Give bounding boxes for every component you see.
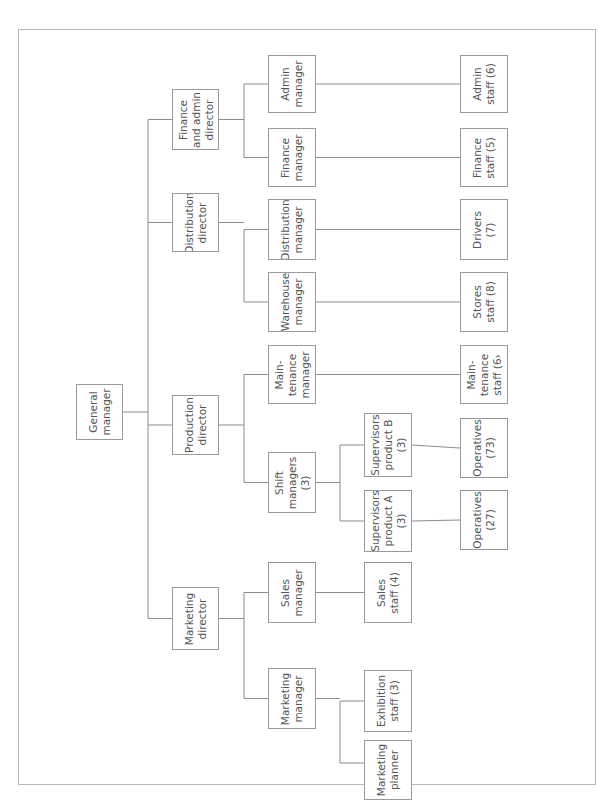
org-node-label: Distribution manager <box>279 199 305 260</box>
org-node-exh-staff: Exhibition staff (3) <box>364 670 412 732</box>
org-node-label: Stores staff (8) <box>471 281 497 322</box>
org-node-stores-staff: Stores staff (8) <box>460 272 508 332</box>
org-node-fin-dir: Finance and admin director <box>172 89 219 150</box>
org-node-sales-staff: Sales staff (4) <box>364 562 412 623</box>
org-node-label: Operatives (73) <box>471 419 497 476</box>
org-node-admin-mgr: Admin manager <box>268 55 316 113</box>
org-node-maint-staff: Main- tenance staff (6› <box>460 345 508 404</box>
org-node-label: Finance staff (5) <box>471 137 497 178</box>
org-node-label: Marketing manager <box>279 672 305 724</box>
org-node-mkt-mgr: Marketing manager <box>268 668 316 729</box>
org-node-label: Shift managers (3) <box>273 456 312 509</box>
connector-line <box>412 445 460 448</box>
org-node-label: Operatives (27) <box>471 491 497 548</box>
org-node-label: Main- tenance manager <box>273 351 312 398</box>
org-node-prod-dir: Production director <box>172 395 219 455</box>
org-node-sup-a: Supervisors product A (3) <box>364 490 412 552</box>
org-node-label: Distribution director <box>183 193 209 252</box>
org-node-label: Admin staff (6) <box>471 63 497 104</box>
org-node-dist-dir: Distribution director <box>172 193 219 252</box>
org-node-label: Marketing planner <box>375 744 401 796</box>
org-node-fin-staff: Finance staff (5) <box>460 128 508 187</box>
org-node-label: Finance and admin director <box>176 92 215 148</box>
org-node-label: Production director <box>183 397 209 453</box>
org-node-mkt-planner: Marketing planner <box>364 740 412 800</box>
org-node-label: Main- tenance staff (6› <box>465 353 504 396</box>
org-node-fin-mgr: Finance manager <box>268 128 316 187</box>
org-node-shift-mgr: Shift managers (3) <box>268 452 316 513</box>
org-node-label: Drivers (7) <box>471 211 497 249</box>
org-node-label: Sales manager <box>279 569 305 616</box>
org-node-ops-27: Operatives (27) <box>460 490 508 550</box>
org-node-mkt-dir: Marketing director <box>172 587 219 650</box>
org-node-label: Sales staff (4) <box>375 572 401 613</box>
org-node-label: Admin manager <box>279 60 305 107</box>
org-node-label: General manager <box>87 388 113 435</box>
org-node-dist-mgr: Distribution manager <box>268 199 316 260</box>
org-node-sales-mgr: Sales manager <box>268 562 316 623</box>
org-node-admin-staff: Admin staff (6) <box>460 55 508 113</box>
org-node-drivers: Drivers (7) <box>460 199 508 260</box>
org-node-gm: General manager <box>76 384 123 440</box>
org-node-wh-mgr: Warehouse manager <box>268 272 316 332</box>
org-node-label: Supervisors product A (3) <box>369 490 408 552</box>
org-node-label: Supervisors product B (3) <box>369 414 408 476</box>
org-node-label: Exhibition staff (3) <box>375 675 401 727</box>
org-node-label: Finance manager <box>279 134 305 181</box>
org-node-maint-mgr: Main- tenance manager <box>268 345 316 404</box>
org-node-sup-b: Supervisors product B (3) <box>364 413 412 477</box>
org-node-label: Warehouse manager <box>279 273 305 331</box>
org-node-ops-73: Operatives (73) <box>460 418 508 478</box>
connector-line <box>412 520 460 521</box>
org-node-label: Marketing director <box>183 592 209 644</box>
